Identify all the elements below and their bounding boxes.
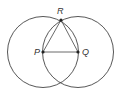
point-p	[41, 50, 44, 53]
label-r: R	[57, 6, 64, 16]
label-p: P	[34, 47, 40, 57]
label-q: Q	[82, 47, 89, 57]
point-r	[59, 18, 62, 21]
segment-pr	[43, 20, 61, 52]
equilateral-triangle-construction: P Q R	[0, 0, 121, 98]
point-q	[76, 50, 79, 53]
segment-qr	[61, 20, 78, 52]
